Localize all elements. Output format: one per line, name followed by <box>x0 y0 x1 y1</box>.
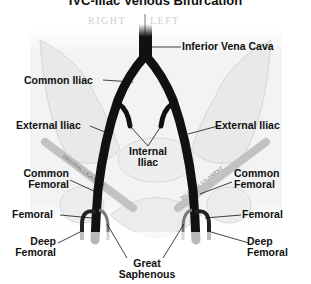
orientation-left: LEFT <box>150 15 180 26</box>
label-femoral-left: Femoral <box>242 209 283 220</box>
label-femoral-right: Femoral <box>12 209 53 220</box>
label-great-saphenous: Great Saphenous <box>115 258 179 280</box>
label-external-iliac-right: External Iliac <box>16 120 81 131</box>
label-deep-femoral-right: Deep Femoral <box>10 236 56 258</box>
label-common-iliac: Common Iliac <box>24 75 93 86</box>
label-external-iliac-left: External Iliac <box>215 120 280 131</box>
label-deep-femoral-left: Deep Femoral <box>247 236 288 258</box>
label-inferior-vena-cava: Inferior Vena Cava <box>182 41 274 52</box>
label-common-femoral-right: Common Femoral <box>16 168 69 190</box>
venous-anatomy-diagram: IVC-Iliac Venous Bifurcation <box>0 0 311 284</box>
orientation-right: RIGHT <box>88 15 126 26</box>
label-common-femoral-left: Common Femoral <box>234 168 280 190</box>
label-internal-iliac: Internal Iliac <box>125 146 171 168</box>
